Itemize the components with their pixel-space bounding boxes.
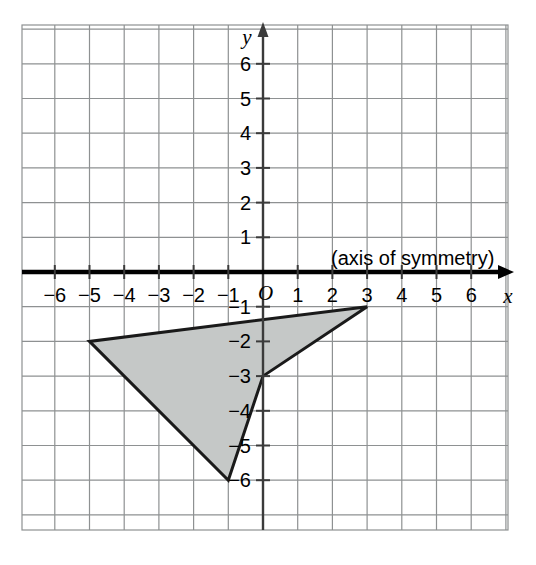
x-axis-tick-label: 6 <box>466 284 477 306</box>
x-axis-name-label: x <box>502 284 513 308</box>
coordinate-plane-figure: −6−5−4−3−2−1123456654321−1−2−3−4−5−6 x y… <box>0 0 536 565</box>
y-axis-tick-label: −5 <box>228 435 251 457</box>
x-axis-tick-label: 2 <box>327 284 338 306</box>
x-axis-tick-label: 5 <box>431 284 442 306</box>
y-axis-tick-label: 4 <box>240 122 251 144</box>
y-axis-tick-label: 3 <box>240 157 251 179</box>
x-axis-tick-label: −6 <box>43 284 66 306</box>
y-axis-tick-label: −1 <box>228 296 251 318</box>
axis-of-symmetry-annotation: (axis of symmetry) <box>331 247 494 269</box>
x-axis-tick-label: −3 <box>147 284 170 306</box>
x-axis-tick-label: −5 <box>78 284 101 306</box>
y-axis-tick-label: 2 <box>240 192 251 214</box>
y-axis-tick-label: −6 <box>228 469 251 491</box>
coordinate-plane-svg: −6−5−4−3−2−1123456654321−1−2−3−4−5−6 x y… <box>0 0 536 565</box>
origin-label: O <box>258 281 273 305</box>
y-axis-tick-label: −4 <box>228 400 251 422</box>
x-axis-tick-label: 3 <box>362 284 373 306</box>
y-axis-tick-label: 6 <box>240 53 251 75</box>
x-axis-tick-label: −4 <box>113 284 136 306</box>
x-axis-tick-label: 1 <box>292 284 303 306</box>
x-axis-tick-label: −2 <box>182 284 205 306</box>
y-axis-tick-label: 1 <box>240 226 251 248</box>
y-axis-tick-label: 5 <box>240 88 251 110</box>
y-axis-tick-label: −3 <box>228 365 251 387</box>
x-axis-tick-label: 4 <box>396 284 407 306</box>
y-axis-name-label: y <box>240 25 252 49</box>
y-axis-tick-label: −2 <box>228 330 251 352</box>
